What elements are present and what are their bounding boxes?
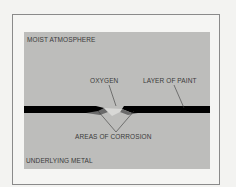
label-areas-of-corrosion: AREAS OF CORROSION — [75, 133, 152, 140]
paint-layer-right — [122, 106, 210, 113]
label-layer-of-paint: LAYER OF PAINT — [143, 77, 197, 84]
paint-leader-line — [174, 85, 184, 108]
label-moist-atmosphere: MOIST ATMOSPHERE — [27, 36, 96, 43]
label-underlying-metal: UNDERLYING METAL — [26, 157, 93, 164]
label-oxygen: OXYGEN — [90, 77, 118, 84]
oxygen-leader-line — [109, 85, 116, 106]
corrosion-leader-right — [116, 111, 134, 132]
paint-layer-left — [24, 106, 104, 113]
